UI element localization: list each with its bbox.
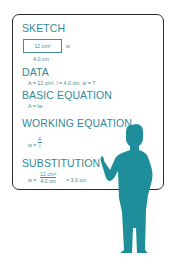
teacher-figure-icon (0, 0, 176, 265)
